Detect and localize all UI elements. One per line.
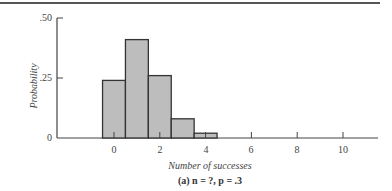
x-tick-label-4: 4	[196, 144, 216, 155]
bars-group	[103, 40, 217, 138]
x-tick-label-0: 0	[104, 144, 124, 155]
figure-caption: (a) n = ?, p = .3	[140, 175, 280, 186]
x-axis-label: Number of successes	[150, 160, 270, 171]
x-tick-label-2: 2	[150, 144, 170, 155]
y-axis-label: Probability	[28, 56, 39, 116]
y-tick-label-50: .50	[28, 12, 52, 23]
x-tick-label-10: 10	[333, 144, 353, 155]
x-tick-label-6: 6	[241, 144, 261, 155]
histogram-bar	[148, 76, 171, 138]
histogram-bar	[103, 80, 126, 138]
y-tick-label-0: 0	[28, 132, 52, 143]
histogram-bar	[125, 40, 148, 138]
x-tick-label-8: 8	[287, 144, 307, 155]
histogram-bar	[171, 119, 194, 138]
